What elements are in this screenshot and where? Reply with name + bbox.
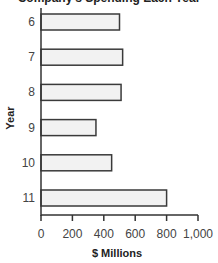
x-tick-label: 0	[38, 227, 45, 241]
bar-year-11	[41, 190, 167, 206]
bars-group	[41, 14, 167, 206]
bar-chart: 67891011 02004006008001,000 $ Millions Y…	[0, 0, 218, 263]
year-labels: 67891011	[22, 15, 36, 205]
bar-year-9	[41, 120, 96, 136]
y-axis-title: Year	[4, 106, 16, 130]
bar-year-6	[41, 14, 120, 30]
x-tick-label: 200	[62, 227, 82, 241]
year-label: 8	[28, 85, 35, 99]
bar-year-10	[41, 155, 112, 171]
year-label: 10	[22, 156, 36, 170]
year-label: 7	[28, 50, 35, 64]
x-axis-title: $ Millions	[92, 247, 142, 259]
x-tick-label: 800	[157, 227, 177, 241]
year-label: 6	[28, 15, 35, 29]
year-label: 11	[23, 191, 36, 205]
year-label: 9	[28, 121, 35, 135]
x-tick-label: 600	[125, 227, 145, 241]
bar-year-7	[41, 49, 123, 65]
x-tick-label: 1,000	[183, 227, 213, 241]
x-tick-label: 400	[94, 227, 114, 241]
x-axis-ticks: 02004006008001,000	[38, 215, 214, 241]
bar-year-8	[41, 84, 121, 100]
